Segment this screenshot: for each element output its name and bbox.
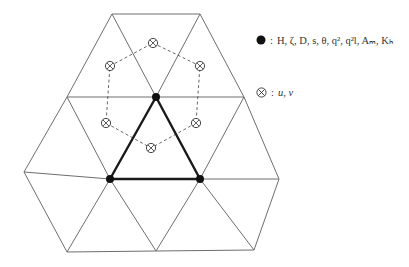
circled-cross-icon [195,61,204,70]
mesh-edge [254,179,279,250]
scalar-variable-list: H, ζ, D, s, θ, q², q²l, Aₘ, Kₕ [277,35,393,46]
mesh-edge [244,97,279,179]
scalar-node-icon [152,93,160,101]
circled-cross-icon [256,87,267,98]
mesh-edge [24,172,67,252]
scalar-node-icon [106,175,114,183]
mesh-edge [112,14,156,97]
mesh-edge [200,179,254,250]
mesh-edge [200,14,244,97]
legend-velocity-separator: : [271,87,274,98]
mesh-edge [67,14,112,97]
highlighted-element-triangle [110,97,200,179]
circled-cross-icon [148,38,157,47]
scalar-node-icon [196,175,204,183]
velocity-variable-list: u, v [278,87,293,98]
circled-cross-icon [105,61,114,70]
mesh-edges [24,14,279,252]
mesh-edge [24,97,67,172]
mesh-edge [67,179,110,252]
legend-scalar-separator: : [270,35,273,46]
scalar-nodes [106,93,204,183]
circled-cross-icon [101,118,110,127]
mesh-edge [67,251,156,252]
circled-cross-icon [146,143,155,152]
mesh-edge [110,179,156,251]
mesh-edge [24,172,110,179]
filled-circle-icon [256,35,266,45]
legend-scalar-variables: H, ζ, D, s, θ, q², q²l, Aₘ, Kₕ [277,34,393,46]
bold-triangle [110,97,200,179]
mesh-edge [67,97,110,179]
legend-velocity: : u, v [256,87,293,98]
mesh-edge [156,250,254,251]
mesh-edge [200,97,244,179]
mesh-edge [156,179,200,251]
legend-scalar: : H, ζ, D, s, θ, q², q²l, Aₘ, Kₕ [256,34,393,46]
circled-cross-icon [191,118,200,127]
